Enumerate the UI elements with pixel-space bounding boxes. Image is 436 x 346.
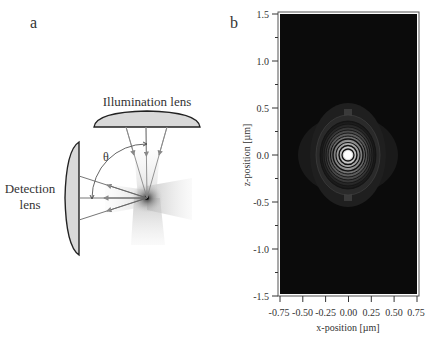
illumination-lens: [94, 111, 200, 127]
detection-lens: [65, 142, 79, 255]
ytick-label: 1.0: [257, 56, 270, 67]
xtick-label: -0.25: [315, 307, 336, 318]
panel-a-schematic: Illumination lens Detection lens θ: [0, 0, 436, 346]
x-axis-title: x-position [µm]: [316, 322, 379, 333]
xtick-label: 0.75: [407, 307, 425, 318]
ytick-label: -1.0: [253, 244, 269, 255]
psf-contour-plot: 1.5 1.0 0.5 0.0 -0.5 -1.0 -1.5 -0.75 -0.…: [241, 9, 425, 333]
xtick-label: 0.25: [363, 307, 381, 318]
ytick-label: 0.0: [257, 150, 270, 161]
psf-shading: [105, 150, 192, 245]
ytick-label: -0.5: [253, 197, 269, 208]
illumination-lens-label: Illumination lens: [103, 94, 191, 109]
xtick-label: 0.00: [340, 307, 358, 318]
y-axis-title: z-position [µm]: [241, 124, 252, 187]
xtick-label: -0.50: [292, 307, 313, 318]
theta-label: θ: [103, 150, 109, 164]
ytick-label: -1.5: [253, 291, 269, 302]
detection-lens-label-line2: lens: [20, 197, 41, 212]
detection-lens-label-line1: Detection: [5, 181, 56, 196]
xtick-label: -0.75: [269, 307, 290, 318]
xtick-label: 0.50: [385, 307, 403, 318]
ytick-label: 0.5: [257, 103, 270, 114]
ytick-label: 1.5: [257, 9, 270, 20]
